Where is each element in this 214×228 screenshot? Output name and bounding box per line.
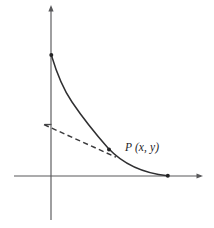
- y-axis-arrow-icon: [48, 5, 53, 12]
- math-figure-canvas: P (x, y): [0, 0, 214, 228]
- point-p-label: P (x, y): [125, 142, 159, 154]
- figure-svg: [0, 0, 214, 228]
- x-intercept-dot: [166, 174, 170, 178]
- tangent-line: [44, 125, 116, 158]
- y-axis-group: [48, 5, 53, 220]
- y-intercept-dot: [49, 53, 53, 57]
- point-p-dot: [107, 148, 111, 152]
- x-axis-arrow-icon: [197, 173, 204, 178]
- decay-curve: [51, 55, 167, 176]
- x-axis-group: [14, 173, 203, 178]
